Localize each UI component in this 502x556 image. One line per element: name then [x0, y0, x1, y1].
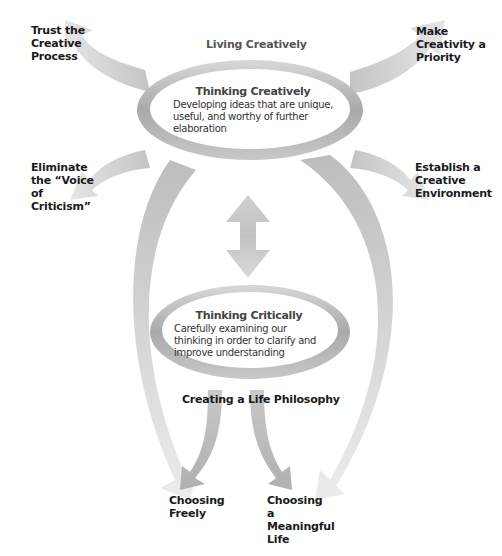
- diagram-graphics: [0, 0, 502, 556]
- double-arrow: [226, 195, 270, 278]
- label-choosing-meaningful-life: Choosing a Meaningful Life: [267, 494, 329, 546]
- lower-oval-text: Thinking Critically Carefully examining …: [174, 310, 324, 359]
- upper-oval-description: Developing ideas that are unique, useful…: [173, 99, 333, 135]
- lower-oval-heading: Thinking Critically: [174, 310, 324, 322]
- label-make-creativity-priority: Make Creativity a Priority: [416, 25, 486, 64]
- top-title: Living Creatively: [206, 38, 307, 51]
- bottom-title: Creating a Life Philosophy: [182, 393, 340, 406]
- label-eliminate-voice-of-criticism: Eliminate the “Voice of Criticism”: [31, 161, 101, 213]
- upper-oval-heading: Thinking Creatively: [173, 86, 333, 98]
- lower-oval-description: Carefully examining our thinking in orde…: [174, 323, 324, 359]
- label-trust-creative-process: Trust the Creative Process: [31, 24, 95, 63]
- label-choosing-freely: Choosing Freely: [169, 494, 229, 520]
- label-establish-creative-environment: Establish a Creative Environment: [415, 161, 502, 200]
- upper-oval-text: Thinking Creatively Developing ideas tha…: [173, 86, 333, 135]
